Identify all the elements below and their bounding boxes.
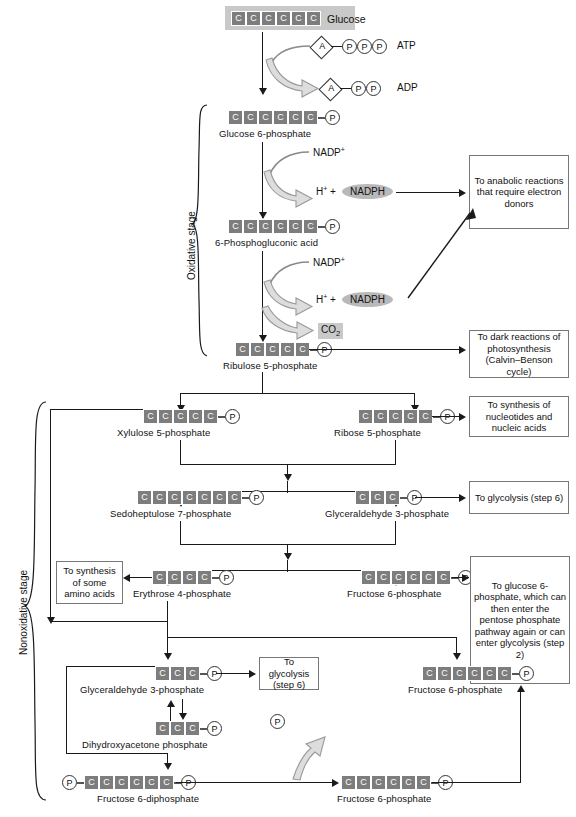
phosphate-circle: P	[325, 219, 340, 234]
carbon-box: C	[258, 110, 273, 125]
plus-sign: +	[330, 186, 336, 197]
arrow-g6p-to-6pg-head	[259, 212, 267, 219]
carbon-box: C	[84, 775, 99, 790]
label-nonoxidative-stage: Nonoxidative stage	[18, 570, 29, 655]
arrow-fdp-to-f6p-head	[332, 779, 339, 787]
carbon-box: C	[188, 409, 203, 424]
molecule-label-fdp: Fructose 6-diphosphate	[97, 793, 199, 804]
molecule-label-s7p: Sedoheptulose 7-phosphate	[110, 508, 231, 519]
g3ptop-down-to-merge	[395, 521, 396, 545]
molecule-label-f6p-mid: Fructose 6-phosphate	[347, 588, 441, 599]
g3p-to-dhap-head	[179, 713, 187, 720]
carbon-box: C	[197, 570, 212, 585]
fate-box-glycolysis-6a: To glycolysis (step 6)	[469, 481, 569, 514]
lower-merge-stem	[167, 621, 168, 638]
label-h-plus-1: H+ +	[316, 185, 336, 197]
carbon-chain-fdp: C C C C C C	[84, 775, 174, 790]
arrow-fdp-to-f6p-line	[176, 782, 334, 783]
molecule-g3p-top: C C C P	[355, 490, 422, 505]
molecule-g3p-bottom: C C C P	[155, 666, 222, 681]
phosphate-circle: P	[366, 81, 381, 96]
merge-stem-1-head	[284, 474, 292, 481]
carbon-box: C	[373, 409, 388, 424]
carbon-box: C	[167, 490, 182, 505]
molecule-label-g6p: Glucose 6-phosphate	[219, 128, 311, 139]
carbon-box: C	[356, 775, 371, 790]
carbon-box: C	[482, 666, 497, 681]
arrow-e4p-to-amino-acids-line	[128, 577, 152, 578]
carbon-box: C	[159, 775, 174, 790]
arrow-to-f6p-lower-head	[453, 653, 461, 660]
carbon-box: C	[185, 666, 200, 681]
carbon-chain-g3p-top: C C C	[355, 490, 400, 505]
fate-box-glucose-6p: To glucose 6-phosphate, which can then e…	[470, 556, 570, 684]
carbon-chain-g6p: C C C C C C	[228, 110, 318, 125]
carbon-chain-f6p-bottomright: C C C C C C	[341, 775, 431, 790]
bond-line	[242, 497, 249, 499]
carbon-box: C	[152, 570, 167, 585]
carbon-box: C	[276, 11, 291, 26]
molecule-xu5p: C C C C C P	[143, 409, 240, 424]
nadp-text: NADP	[313, 147, 341, 158]
arrow-ru5p-to-dark-reactions-line	[309, 349, 461, 350]
carbon-box: C	[303, 219, 318, 234]
adenosine-symbol-atp: A	[309, 35, 333, 59]
bond-line	[77, 782, 84, 784]
arrow-g3ptop-to-glycolysis-line	[415, 497, 461, 498]
carbon-box: C	[436, 570, 451, 585]
phosphate-circle: P	[249, 490, 264, 505]
arrow-to-g3p-bottom-head	[164, 653, 172, 660]
h-superscript: +	[323, 185, 327, 192]
carbon-box: C	[422, 666, 437, 681]
phosphate-circle: P	[219, 570, 234, 585]
bond-line	[512, 673, 519, 675]
arrow-ru5p-to-dark-reactions-head	[459, 346, 466, 354]
carbon-box: C	[182, 570, 197, 585]
carbon-box: C	[452, 666, 467, 681]
carbon-box: C	[370, 490, 385, 505]
bond-line	[318, 226, 325, 228]
bond-line	[200, 673, 207, 675]
xu5p-down-to-merge	[180, 440, 181, 465]
carbon-chain-xu5p: C C C C C	[143, 409, 218, 424]
phosphate-circle: P	[351, 81, 366, 96]
adenosine-letter: A	[315, 40, 330, 53]
carbon-box: C	[288, 219, 303, 234]
carbon-chain-s7p: C C C C C C C	[137, 490, 242, 505]
g3pbottom-recycle-bottom	[66, 753, 167, 754]
phosphate-circle: P	[342, 39, 357, 54]
lower-merge-bar	[50, 621, 168, 622]
carbon-box: C	[129, 775, 144, 790]
dhap-to-g3p-head	[167, 700, 175, 707]
co2-text: CO	[321, 324, 336, 335]
carbon-box: C	[203, 409, 218, 424]
carbon-box: C	[416, 775, 431, 790]
molecule-e4p: C C C C P	[152, 570, 234, 585]
arrow-nadph1-to-anabolic-head	[459, 189, 466, 197]
phosphate-circle: P	[225, 409, 240, 424]
xu5p-recycle-vertical	[50, 409, 51, 622]
arrow-g6p-to-6pg-line	[262, 142, 263, 218]
molecule-6pg: C C C C C C P	[228, 219, 340, 234]
carbon-chain-r5p: C C C C C	[358, 409, 433, 424]
phosphate-circle: P	[207, 721, 222, 736]
e4p-down-line	[167, 601, 168, 622]
co2-subscript: 2	[336, 329, 340, 338]
carbon-box: C	[355, 490, 370, 505]
arrow-6pg-to-ru5p-line	[262, 251, 263, 341]
nadp-superscript: +	[341, 256, 345, 263]
label-atp: ATP	[397, 40, 416, 51]
bond-line	[218, 416, 225, 418]
arrow-r5p-to-nucleotides-line	[432, 416, 461, 417]
carbon-box: C	[388, 409, 403, 424]
carbon-box: C	[114, 775, 129, 790]
carbon-box: C	[197, 490, 212, 505]
carbon-chain-f6p-mid: C C C C C C	[361, 570, 451, 585]
carbon-box: C	[385, 490, 400, 505]
molecule-label-f6p-bottomright: Fructose 6-phosphate	[337, 793, 431, 804]
molecule-label-e4p: Erythrose 4-phosphate	[133, 588, 231, 599]
carbon-box: C	[258, 219, 273, 234]
carbon-box: C	[391, 570, 406, 585]
carbon-box: C	[273, 110, 288, 125]
carbon-box: C	[421, 570, 436, 585]
